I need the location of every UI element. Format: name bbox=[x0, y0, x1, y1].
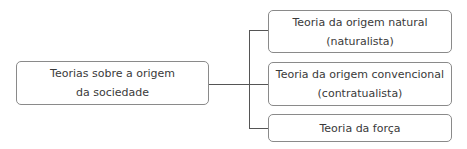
child-node-forca: Teoria da força bbox=[268, 114, 452, 142]
connector-root-horizontal bbox=[209, 84, 268, 85]
root-node: Teorias sobre a origem da sociedade bbox=[16, 61, 209, 105]
connector-vertical-trunk bbox=[249, 30, 250, 129]
connector-child-3 bbox=[249, 128, 268, 129]
child-node-convencional-line1: Teoria da origem convencional bbox=[276, 65, 444, 84]
root-node-line1: Teorias sobre a origem bbox=[50, 64, 175, 83]
child-node-natural-line2: (naturalista) bbox=[326, 32, 394, 51]
child-node-natural: Teoria da origem natural (naturalista) bbox=[268, 10, 452, 53]
child-node-convencional-line2: (contratualista) bbox=[318, 84, 403, 103]
connector-child-1 bbox=[249, 30, 268, 31]
child-node-forca-line1: Teoria da força bbox=[319, 119, 400, 138]
root-node-line2: da sociedade bbox=[76, 83, 149, 102]
child-node-natural-line1: Teoria da origem natural bbox=[293, 13, 428, 32]
child-node-convencional: Teoria da origem convencional (contratua… bbox=[268, 62, 452, 106]
